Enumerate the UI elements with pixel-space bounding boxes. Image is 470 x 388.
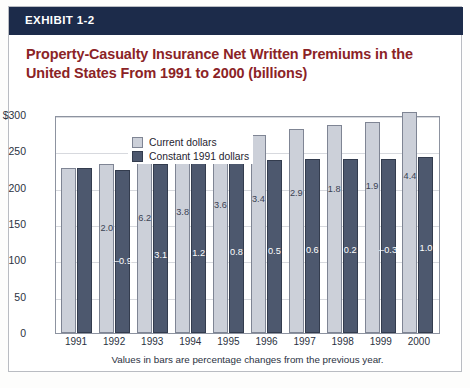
bar-value-label: 0.5	[268, 246, 281, 256]
exhibit-frame: EXHIBIT 1-2 Property-Casualty Insurance …	[8, 6, 462, 372]
bar: 1.9	[365, 122, 380, 333]
y-axis-tick-label: 0	[0, 327, 26, 339]
bar: –0.3	[381, 159, 396, 333]
bar: 3.4	[251, 135, 266, 333]
legend-label-constant-dollars: Constant 1991 dollars	[149, 151, 249, 162]
x-axis-tick-label: 1993	[135, 336, 170, 352]
bar: 3.8	[175, 148, 190, 333]
bar-value-label: 1.2	[192, 248, 205, 258]
chart-footnote: Values in bars are percentage changes fr…	[55, 354, 440, 365]
bar-value-label: 2.9	[290, 188, 303, 198]
bar-value-label: 1.9	[366, 181, 379, 191]
bar: 0.5	[267, 160, 282, 333]
legend-label-current-dollars: Current dollars	[149, 137, 217, 148]
bar: 3.6	[213, 141, 228, 333]
bar	[77, 168, 92, 333]
plot-area: 2.0–0.96.23.13.81.23.60.83.40.52.90.61.8…	[55, 116, 440, 334]
chart-container: $300250200150100500 2.0–0.96.23.13.81.23…	[9, 102, 463, 373]
x-axis-tick-label: 1992	[97, 336, 132, 352]
bar-group: 2.90.6	[287, 117, 322, 333]
bar: 2.0	[99, 164, 114, 333]
bar: 0.6	[305, 159, 320, 333]
bar-value-label: –0.3	[379, 245, 397, 255]
bar-group: 4.41.0	[401, 117, 436, 333]
exhibit-header-band: EXHIBIT 1-2	[9, 7, 463, 35]
bar: 1.8	[327, 125, 342, 333]
exhibit-label: EXHIBIT 1-2	[25, 14, 95, 26]
bar-group	[60, 117, 95, 333]
bar-value-label: 3.4	[252, 194, 265, 204]
legend-item-current-dollars: Current dollars	[132, 137, 249, 148]
bar-value-label: –0.9	[114, 256, 132, 266]
bar	[61, 168, 76, 333]
bar-value-label: 3.1	[154, 250, 167, 260]
bar: 1.0	[418, 157, 433, 333]
bar: 4.4	[402, 112, 417, 333]
bar-value-label: 0.8	[230, 247, 243, 257]
x-axis-tick-label: 1995	[211, 336, 246, 352]
bar-value-label: 4.4	[404, 171, 417, 181]
legend-swatch-current-dollars	[132, 137, 143, 148]
bar: 1.2	[191, 162, 206, 333]
x-axis-tick-label: 1991	[59, 336, 94, 352]
chart-legend: Current dollars Constant 1991 dollars	[128, 135, 253, 164]
bar-value-label: 1.8	[328, 184, 341, 194]
legend-item-constant-dollars: Constant 1991 dollars	[132, 151, 249, 162]
x-axis-tick-label: 1999	[363, 336, 398, 352]
x-axis-tick-label: 1997	[287, 336, 322, 352]
legend-swatch-constant-dollars	[132, 151, 143, 162]
bar: –0.9	[115, 170, 130, 334]
bar: 6.2	[137, 154, 152, 333]
page-title: Property-Casualty Insurance Net Written …	[26, 45, 446, 83]
bar-value-label: 3.8	[176, 207, 189, 217]
bar-group: 1.9–0.3	[363, 117, 398, 333]
bar-value-label: 3.6	[214, 200, 227, 210]
y-axis-tick-label: 50	[0, 291, 26, 303]
bar-value-label: 0.6	[306, 245, 319, 255]
y-axis-tick-label: $300	[0, 109, 26, 121]
bar-value-label: 0.2	[344, 245, 357, 255]
x-axis-tick-label: 1996	[249, 336, 284, 352]
bar-value-label: 6.2	[138, 213, 151, 223]
y-axis-tick-label: 100	[0, 254, 26, 266]
bar: 3.1	[153, 164, 168, 333]
bar-group: 3.40.5	[249, 117, 284, 333]
y-axis-tick-label: 200	[0, 182, 26, 194]
bar: 2.9	[289, 129, 304, 333]
x-axis-tick-label: 2000	[401, 336, 436, 352]
y-axis-tick-label: 250	[0, 145, 26, 157]
x-axis-tick-label: 1998	[325, 336, 360, 352]
bar: 0.2	[343, 159, 358, 333]
x-axis-tick-label: 1994	[173, 336, 208, 352]
exhibit-page: EXHIBIT 1-2 Property-Casualty Insurance …	[0, 0, 470, 388]
y-axis-tick-label: 150	[0, 218, 26, 230]
bar-group: 1.80.2	[325, 117, 360, 333]
bar-value-label: 1.0	[420, 243, 433, 253]
bar-value-label: 2.0	[100, 223, 113, 233]
bar: 0.8	[229, 161, 244, 333]
x-axis-labels: 1991199219931994199519961997199819992000	[55, 336, 440, 352]
